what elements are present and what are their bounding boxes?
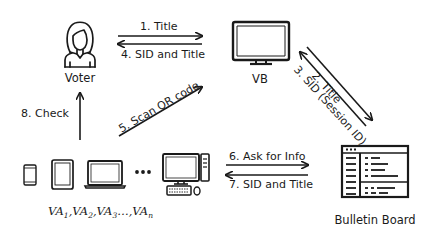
protocol-diagram: Voter VB [0, 0, 438, 238]
edge-label-step-4: 4. SID and Title [121, 49, 205, 60]
ellipsis-icon [135, 170, 151, 174]
desktop-computer-icon [163, 154, 209, 195]
laptop-icon [85, 161, 125, 188]
tablet-icon [52, 160, 73, 189]
edge-label-step-6: 6. Ask for Info [229, 151, 306, 162]
smartphone-icon [24, 165, 36, 185]
edge-label-step-8: 8. Check [21, 108, 69, 119]
edge-label-step-1: 1. Title [140, 21, 178, 32]
va-devices-label: VA1,VA2,VA3…,VAn [48, 206, 153, 220]
edge-label-step-7: 7. SID and Title [229, 179, 313, 190]
